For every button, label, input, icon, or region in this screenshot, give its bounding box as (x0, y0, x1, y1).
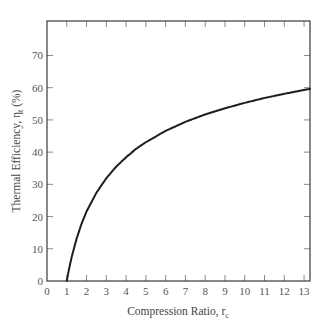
x-tick-label: 1 (64, 285, 70, 297)
x-tick-label: 6 (163, 285, 169, 297)
chart-background (0, 0, 324, 325)
y-tick-label: 30 (32, 178, 44, 190)
x-tick-label: 11 (259, 285, 270, 297)
x-tick-label: 5 (143, 285, 149, 297)
y-tick-label: 0 (38, 275, 44, 287)
y-tick-label: 70 (32, 49, 44, 61)
y-tick-label: 50 (32, 114, 44, 126)
y-tick-label: 20 (32, 211, 44, 223)
y-tick-label: 10 (32, 243, 44, 255)
x-tick-label: 4 (123, 285, 129, 297)
y-tick-label: 60 (32, 82, 44, 94)
efficiency-chart: 012345678910111213010203040506070 Compre… (0, 0, 324, 325)
x-tick-label: 2 (84, 285, 90, 297)
y-tick-label: 40 (32, 146, 44, 158)
x-tick-label: 9 (222, 285, 228, 297)
x-tick-label: 12 (279, 285, 290, 297)
x-tick-label: 10 (239, 285, 251, 297)
x-tick-label: 0 (44, 285, 50, 297)
x-tick-label: 13 (299, 285, 311, 297)
x-tick-label: 3 (104, 285, 110, 297)
x-tick-label: 7 (183, 285, 189, 297)
x-tick-label: 8 (202, 285, 208, 297)
